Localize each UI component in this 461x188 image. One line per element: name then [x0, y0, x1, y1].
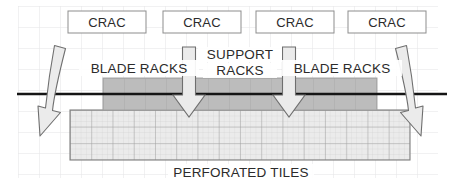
blade-racks-left-label: BLADE RACKS	[91, 61, 188, 76]
support-racks-line1-label: SUPPORT	[207, 47, 273, 62]
perforated-tiles-block	[70, 110, 410, 160]
crac-unit-4-label: CRAC	[368, 15, 406, 30]
crac-unit-2: CRAC	[163, 11, 241, 33]
crac-unit-1-label: CRAC	[88, 15, 126, 30]
perforated-tiles-grid	[70, 110, 410, 160]
diagram-canvas: CRAC CRAC CRAC CRAC	[0, 0, 461, 188]
blade-racks-right-label: BLADE RACKS	[294, 61, 391, 76]
airflow-diagram: CRAC CRAC CRAC CRAC	[0, 0, 461, 188]
crac-unit-3-label: CRAC	[276, 15, 314, 30]
crac-unit-3: CRAC	[256, 11, 334, 33]
support-racks-line2-label: RACKS	[216, 63, 264, 78]
crac-unit-1: CRAC	[68, 11, 146, 33]
crac-unit-2-label: CRAC	[183, 15, 221, 30]
crac-unit-4: CRAC	[348, 11, 426, 33]
perforated-tiles-label: PERFORATED TILES	[173, 165, 308, 180]
